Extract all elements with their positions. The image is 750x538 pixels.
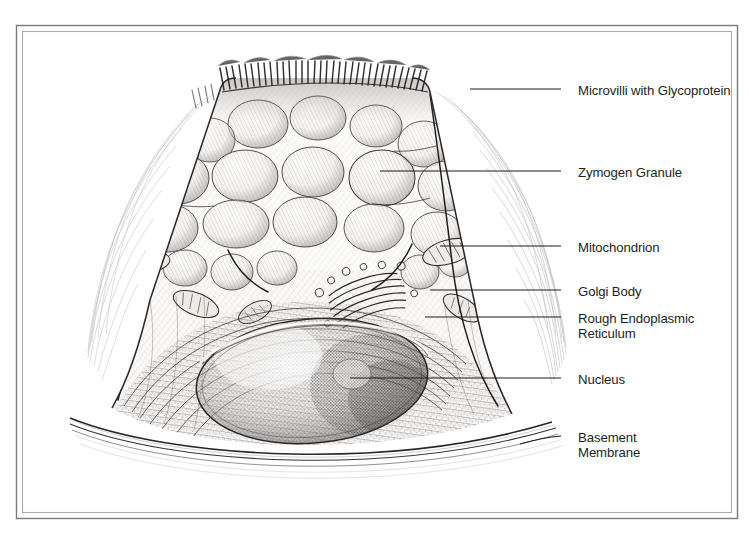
- page-number: 2: [0, 484, 1, 501]
- label-zymogen-granule: Zymogen Granule: [578, 166, 682, 181]
- label-microvilli: Microvilli with Glycoprotein: [578, 84, 731, 99]
- label-basement-membrane: BasementMembrane: [578, 431, 640, 460]
- label-nucleus: Nucleus: [578, 373, 625, 388]
- label-golgi-body: Golgi Body: [578, 285, 642, 300]
- label-rough-er: Rough EndoplasmicReticulum: [578, 312, 694, 341]
- leader-basement: [520, 436, 561, 444]
- label-mitochondrion: Mitochondrion: [578, 241, 660, 256]
- figure-illustration: Microvilli with Glycoprotein Zymogen Gra…: [0, 0, 750, 538]
- acinar-cell-body: [90, 60, 540, 460]
